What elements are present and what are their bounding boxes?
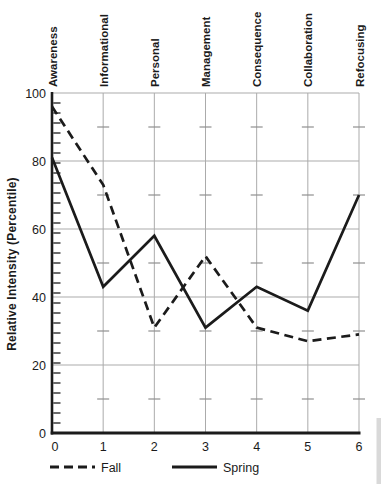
- x-tick-label: 1: [100, 440, 107, 454]
- x-tick-label: 2: [151, 440, 158, 454]
- legend-spring-label: Spring: [223, 461, 259, 475]
- y-tick-label: 80: [32, 155, 46, 169]
- category-label-informational: Informational: [98, 14, 110, 87]
- y-tick-label: 0: [39, 427, 46, 441]
- y-axis-title: Relative Intensity (Percentile): [5, 177, 19, 351]
- category-label-refocusing: Refocusing: [354, 24, 366, 87]
- legend-fall-label: Fall: [101, 461, 121, 475]
- category-label-awareness: Awareness: [47, 26, 59, 87]
- y-tick-label: 20: [32, 359, 46, 373]
- category-label-consequence: Consequence: [251, 12, 263, 87]
- x-tick-label: 0: [52, 440, 59, 454]
- category-label-management: Management: [200, 17, 212, 87]
- chart-canvas: AwarenessInformationalPersonalManagement…: [0, 0, 381, 484]
- x-tick-label: 3: [202, 440, 209, 454]
- scan-edge-artifact: [377, 418, 381, 484]
- x-tick-label: 4: [253, 440, 260, 454]
- y-tick-label: 60: [32, 223, 46, 237]
- category-label-collaboration: Collaboration: [302, 13, 314, 87]
- x-tick-label: 5: [304, 440, 311, 454]
- stages-of-concern-line-chart: AwarenessInformationalPersonalManagement…: [0, 0, 381, 484]
- x-tick-label: 6: [356, 440, 363, 454]
- category-label-personal: Personal: [149, 38, 161, 87]
- y-tick-label: 40: [32, 291, 46, 305]
- y-tick-label: 100: [25, 87, 46, 101]
